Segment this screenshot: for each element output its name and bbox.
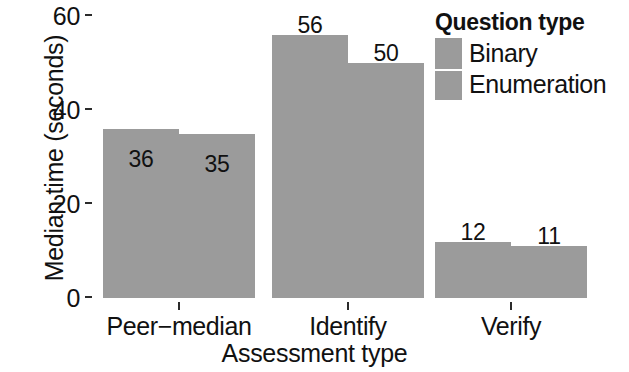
- bar-identify-binary: [272, 35, 348, 298]
- y-tick-mark-20: [85, 202, 92, 204]
- y-tick-label-0: 0: [14, 286, 80, 311]
- legend-label-enumeration: Enumeration: [469, 71, 606, 98]
- x-tick-mark-verify: [510, 302, 512, 310]
- x-tick-label-verify: Verify: [381, 314, 629, 339]
- legend-item-binary: Binary: [435, 38, 629, 69]
- y-tick-label-60: 60: [14, 4, 80, 29]
- x-axis-title: Assessment type: [0, 341, 629, 366]
- bar-chart-figure: Median time (seconds) 60 40 20 0 36 35 5…: [0, 0, 629, 372]
- legend-title: Question type: [435, 9, 629, 35]
- bar-value-label-36: 36: [101, 148, 181, 171]
- bar-value-label-12: 12: [433, 221, 513, 244]
- y-tick-mark-60: [85, 14, 92, 16]
- legend-swatch-binary-icon: [435, 38, 462, 69]
- legend-label-binary: Binary: [469, 40, 537, 67]
- bar-verify-binary: [435, 242, 511, 298]
- bar-value-label-50: 50: [346, 42, 426, 65]
- y-tick-mark-0: [85, 296, 92, 298]
- x-tick-mark-identify: [347, 302, 349, 310]
- y-axis-title: Median time (seconds): [40, 8, 68, 308]
- bar-value-label-11: 11: [509, 225, 589, 248]
- y-tick-label-20: 20: [14, 192, 80, 217]
- y-tick-mark-40: [85, 108, 92, 110]
- y-tick-label-40: 40: [14, 98, 80, 123]
- bar-identify-enumeration: [348, 63, 424, 298]
- legend-swatch-enumeration-icon: [435, 69, 462, 100]
- legend: Question type Binary Enumeration: [435, 9, 629, 100]
- legend-item-enumeration: Enumeration: [435, 69, 629, 100]
- bar-value-label-35: 35: [177, 153, 257, 176]
- bar-value-label-56: 56: [270, 14, 350, 37]
- bar-verify-enumeration: [511, 246, 587, 298]
- x-tick-mark-peer-median: [178, 302, 180, 310]
